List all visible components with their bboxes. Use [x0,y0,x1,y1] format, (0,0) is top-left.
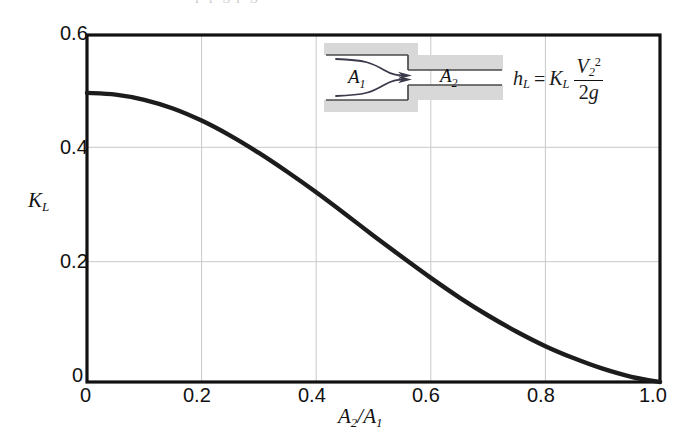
head-loss-formula: hL = KL V22 2g [513,56,603,103]
y-tick-label-0.4: 0.4 [60,136,88,159]
formula-fraction-numerator: V22 [574,56,603,81]
x-axis-title-denominator: A [363,404,376,428]
formula-lhs-subscript: L [523,77,530,91]
inset-wall-upper-small [408,55,503,70]
y-tick-label-0.6: 0.6 [60,22,88,45]
formula-coefficient: KL [549,67,569,92]
inset-wall-lower-large [324,100,408,112]
inset-wall-upper-large [324,43,408,55]
x-axis-title-numerator: A [338,404,351,428]
formula-fraction: V22 2g [574,56,603,103]
inset-streamline-lower [336,80,406,96]
inset-pipe-contraction-diagram: A1 A2 [322,41,505,114]
x-tick-label-0: 0 [80,384,91,407]
x-tick-label-0.8: 0.8 [527,384,555,407]
figure-root: l p p g p g 0.6 0.4 0.2 0 0 0.2 0.4 0.6 … [0,0,683,446]
inset-label-A1: A1 [346,66,366,91]
x-tick-label-0.6: 0.6 [412,384,440,407]
x-axis-title: A2/A1 [338,404,383,431]
inset-flow-arrows [398,72,412,84]
y-axis-title: KL [28,188,49,215]
x-tick-label-0.2: 0.2 [183,384,211,407]
data-curve [87,93,660,382]
inset-streamlines [336,59,406,96]
x-axis-title-denominator-subscript: 1 [376,415,383,430]
inset-streamline-upper [336,59,406,76]
y-tick-label-0.2: 0.2 [60,250,88,273]
y-axis-title-symbol: K [28,188,42,212]
x-tick-label-1.0: 1.0 [639,384,667,407]
formula-coefficient-subscript: L [563,77,570,91]
x-tick-label-0.4: 0.4 [298,384,326,407]
formula-numerator-exponent: 2 [595,55,601,69]
y-axis-title-subscript: L [42,199,49,214]
formula-fraction-denominator: 2g [577,81,601,103]
formula-equals-sign: = [534,68,545,91]
formula-lhs: hL [513,67,530,92]
